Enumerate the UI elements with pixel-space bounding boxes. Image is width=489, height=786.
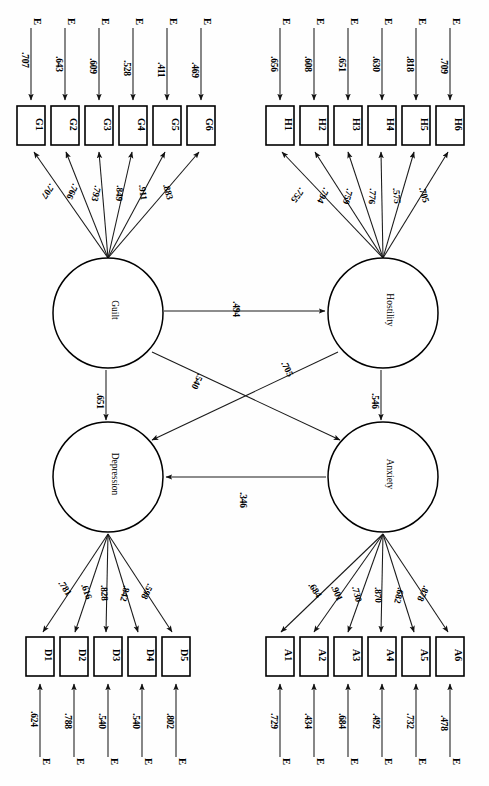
error-symbol-g3: E — [100, 18, 111, 25]
latent-label-hostility: Hostility — [385, 293, 395, 327]
anxiety-indicator-group: .684 .901 .730 .870 .682 .878 A1 A2 A3 A… — [266, 534, 464, 765]
error-coef-d5: .802 — [165, 713, 175, 729]
error-symbol-g4: E — [134, 18, 145, 25]
path-coef-guilt-depression: .651 — [95, 393, 105, 409]
indicator-label-g3: G3 — [102, 118, 113, 131]
error-symbol-h4: E — [383, 18, 394, 25]
error-coef-d3: .540 — [97, 713, 107, 729]
error-symbol-h5: E — [417, 18, 428, 25]
indicator-label-h5: H5 — [419, 118, 430, 131]
indicator-label-h6: H6 — [453, 118, 464, 131]
sem-canvas: E E E E E E .707 .643 .609 .528 — [0, 0, 489, 786]
loading-coef-g4: .849 — [114, 185, 125, 202]
indicator-label-h4: H4 — [385, 118, 396, 131]
indicator-label-g5: G5 — [170, 118, 181, 131]
error-coef-g2: .643 — [54, 56, 64, 72]
depression-indicator-boxes: D1 D2 D3 D4 D5 — [26, 637, 190, 676]
error-coef-g1: .707 — [20, 52, 30, 68]
depression-loading-labels: .781 .616 .828 .842 .598 — [56, 579, 155, 603]
loading-arrow-d1 — [43, 534, 108, 632]
error-coef-h4: .630 — [371, 56, 381, 72]
anxiety-loading-labels: .684 .901 .730 .870 .682 .878 — [306, 581, 431, 605]
loading-arrow-h1 — [282, 152, 383, 258]
error-coef-h3: .651 — [337, 56, 347, 72]
error-symbol-a2: E — [315, 758, 326, 765]
latent-label-guilt: Guilt — [110, 300, 120, 320]
indicator-label-d4: D4 — [145, 649, 156, 661]
path-coef-hostility-anxiety: .546 — [370, 393, 380, 409]
error-symbol-h2: E — [315, 18, 326, 25]
hostility-indicator-boxes: H1 H2 H3 H4 H5 H6 — [266, 106, 464, 145]
error-coef-d4: .540 — [131, 713, 141, 729]
error-coef-g5: .411 — [156, 62, 166, 78]
loading-arrow-h4 — [381, 152, 383, 258]
error-coef-a5: .732 — [405, 713, 415, 729]
hostility-error-symbols: E E E E E E — [281, 18, 462, 25]
latent-label-anxiety: Anxiety — [385, 459, 395, 490]
error-symbol-a6: E — [451, 758, 462, 765]
loading-coef-d1: .781 — [56, 579, 73, 598]
error-symbol-g6: E — [202, 18, 213, 25]
depression-error-labels: .624 .788 .540 .540 .802 — [29, 711, 175, 729]
error-symbol-d4: E — [143, 758, 154, 765]
depression-error-symbols: E E E E E — [41, 758, 188, 765]
loading-arrow-g1 — [34, 152, 108, 258]
error-symbol-d1: E — [41, 758, 52, 765]
loading-coef-g5: .911 — [137, 184, 149, 201]
indicator-label-g1: G1 — [34, 118, 45, 131]
loading-coef-a4: .870 — [373, 587, 383, 603]
loading-coef-g6: .883 — [161, 183, 175, 201]
error-coef-a6: .478 — [439, 715, 449, 731]
loading-arrow-a1 — [281, 534, 383, 632]
loading-coef-d2: .616 — [79, 582, 94, 601]
guilt-error-symbols: E E E E E E — [32, 18, 213, 25]
guilt-error-labels: .707 .643 .609 .528 .411 .469 — [20, 52, 200, 78]
loading-arrow-a2 — [314, 534, 383, 632]
depression-indicator-group: .781 .616 .828 .842 .598 D1 D2 D3 D4 D5 — [26, 534, 190, 765]
depression-error-arrows — [40, 684, 176, 757]
sem-path-diagram: E E E E E E .707 .643 .609 .528 — [0, 0, 489, 786]
error-symbol-h3: E — [349, 18, 360, 25]
loading-coef-h6: .705 — [417, 186, 431, 204]
path-coef-guilt-hostility: .494 — [231, 301, 241, 317]
latent-node-depression — [53, 422, 163, 532]
error-symbol-d2: E — [75, 758, 86, 765]
loading-arrow-g5 — [108, 152, 165, 258]
latent-label-depression: Depression — [110, 453, 120, 496]
path-coef-guilt-anxiety: .540 — [189, 372, 205, 391]
indicator-label-a2: A2 — [317, 649, 328, 661]
loading-arrow-a3 — [348, 534, 383, 632]
indicator-label-a4: A4 — [385, 649, 396, 661]
anxiety-indicator-boxes: A1 A2 A3 A4 A5 A6 — [266, 637, 464, 676]
hostility-loading-arrows — [282, 152, 448, 258]
error-coef-a4: .492 — [371, 713, 381, 729]
hostility-indicator-group: E E E E E E .656 .608 .651 .630 .818 — [266, 18, 464, 258]
error-coef-d2: .788 — [63, 713, 73, 729]
guilt-loading-arrows — [34, 152, 199, 258]
error-symbol-a5: E — [417, 758, 428, 765]
latent-node-guilt — [53, 258, 163, 368]
loading-coef-h5: .575 — [391, 187, 402, 204]
guilt-indicator-boxes: G1 G2 G3 G4 G5 G6 — [17, 106, 215, 145]
anxiety-loading-arrows — [281, 534, 448, 632]
indicator-label-d1: D1 — [43, 649, 54, 661]
loading-coef-d4: .842 — [118, 585, 132, 603]
indicator-label-a3: A3 — [351, 649, 362, 661]
error-coef-g3: .609 — [88, 58, 98, 74]
error-symbol-g1: E — [32, 18, 43, 25]
error-symbol-h1: E — [281, 18, 292, 25]
indicator-label-h3: H3 — [351, 118, 362, 131]
loading-arrow-g2 — [66, 152, 108, 258]
error-coef-h1: .656 — [269, 56, 279, 72]
error-symbol-a1: E — [281, 758, 292, 765]
indicator-label-h1: H1 — [283, 118, 294, 131]
loading-arrow-d2 — [75, 534, 108, 632]
error-coef-h5: .818 — [405, 56, 415, 72]
error-coef-h6: .709 — [439, 58, 449, 74]
loading-coef-a2: .901 — [329, 584, 345, 603]
anxiety-error-labels: .729 .434 .684 .492 .732 .478 — [269, 713, 449, 731]
indicator-label-g2: G2 — [68, 118, 79, 131]
error-symbol-g2: E — [66, 18, 77, 25]
loading-arrow-h5 — [383, 152, 414, 258]
guilt-indicator-group: E E E E E E .707 .643 .609 .528 — [17, 18, 215, 258]
